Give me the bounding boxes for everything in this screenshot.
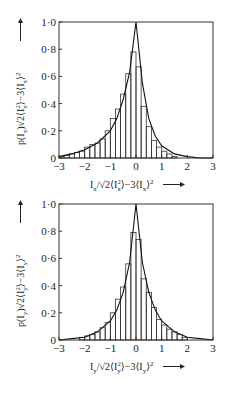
histogram-bar [131,52,136,158]
histogram-bar [136,67,141,158]
x-tick-label: 1 [159,342,165,354]
histogram-bar [167,329,172,340]
histogram-bar [157,147,162,158]
x-tick-label: 0 [133,342,139,354]
x-tick-label: −1 [104,160,116,172]
histogram-bar [151,307,156,340]
y-tick-label: 0·8 [41,43,56,55]
y-axis-label: p(Iy)√2⟨Iy2⟩−3⟨Iy⟩2 [14,200,29,327]
arrow-head-icon [18,18,23,23]
histogram-bar [95,143,100,158]
y-tick-label: 0·8 [41,225,56,237]
histogram-bar [110,119,115,158]
histogram-bar [121,287,126,340]
chart-top-ix: −3−2−1012300·20·40·60·81·0Ix/√2⟨Ix2⟩−3⟨I… [0,0,231,200]
plot-area [59,22,213,158]
x-axis-label: Iy/√2⟨Iy2⟩−3⟨Iy⟩2 [90,360,154,375]
svg-text:p(Iy)√2⟨Iy2⟩−3⟨Iy⟩2: p(Iy)√2⟨Iy2⟩−3⟨Iy⟩2 [14,254,29,327]
histogram-bar [80,151,85,158]
chart-bottom-iy: −3−2−1012300·20·40·60·81·0Iy/√2⟨Iy2⟩−3⟨I… [0,182,231,382]
x-tick-label: 0 [133,160,139,172]
y-tick-label: 1·0 [41,16,56,28]
svg-text:p(Ix)√2⟨Ix2⟩−3⟨Ix⟩2: p(Ix)√2⟨Ix2⟩−3⟨Ix⟩2 [14,72,29,145]
histogram-bar [162,151,167,158]
histogram-bar [162,325,167,340]
histogram-plot-ix: −3−2−1012300·20·40·60·81·0Ix/√2⟨Ix2⟩−3⟨I… [0,0,231,200]
plot-area [59,204,213,340]
x-tick-label: −1 [104,342,116,354]
x-tick-label: 3 [210,160,216,172]
y-tick-label: 0·2 [41,307,56,319]
histogram-bar [141,279,146,340]
y-tick-label: 0·6 [41,70,56,82]
y-axis-label: p(Ix)√2⟨Ix2⟩−3⟨Ix⟩2 [14,18,29,145]
y-tick-label: 0 [51,334,57,346]
histogram-bar [141,106,146,158]
histogram-bar [167,154,172,158]
x-tick-label: 1 [159,160,165,172]
histogram-bar [146,292,151,340]
y-tick-label: 0 [51,152,57,164]
histogram-bar [157,320,162,340]
x-tick-label: −2 [79,160,91,172]
arrow-head-icon [18,200,23,205]
x-tick-label: 3 [210,342,216,354]
histogram-bar [136,239,141,340]
y-tick-label: 0·4 [41,280,56,292]
x-tick-label: 2 [185,342,191,354]
histogram-bar [100,139,105,158]
histogram-plot-iy: −3−2−1012300·20·40·60·81·0Iy/√2⟨Iy2⟩−3⟨I… [0,182,231,382]
y-tick-label: 1·0 [41,198,56,210]
x-tick-label: 2 [185,160,191,172]
y-tick-label: 0·4 [41,98,56,110]
histogram-bar [151,140,156,158]
y-tick-label: 0·6 [41,252,56,264]
y-tick-label: 0·2 [41,125,56,137]
histogram-bar [146,127,151,158]
x-tick-label: −2 [79,342,91,354]
arrow-head-icon [180,364,185,369]
